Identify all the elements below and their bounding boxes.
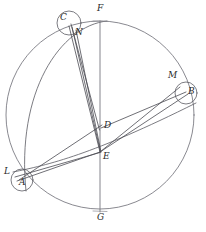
point-label-A: A <box>19 178 26 187</box>
arc-through-A-E-B <box>13 103 196 172</box>
point-label-N: N <box>75 28 83 37</box>
geometry-figure: C N F M B D E L A G <box>0 0 206 232</box>
chord-D-to-B <box>101 92 186 128</box>
point-label-M: M <box>168 71 177 80</box>
chord-L-to-E <box>15 153 100 178</box>
point-label-E: E <box>103 152 110 161</box>
point-label-F: F <box>97 4 103 13</box>
chord-E-to-M <box>100 87 180 152</box>
chord-C-to-D <box>71 24 100 130</box>
tick-at-F <box>93 21 107 22</box>
chord-A-to-D <box>19 125 102 180</box>
arc-through-C-A <box>25 21 107 191</box>
point-label-L: L <box>4 167 10 176</box>
point-label-D: D <box>104 121 111 130</box>
chord-Cb-to-E <box>72 27 101 152</box>
point-label-B: B <box>188 87 195 96</box>
chord-C-to-E <box>69 26 100 152</box>
geometry-canvas <box>0 0 206 232</box>
point-label-G: G <box>97 213 104 222</box>
point-label-C: C <box>60 13 67 22</box>
